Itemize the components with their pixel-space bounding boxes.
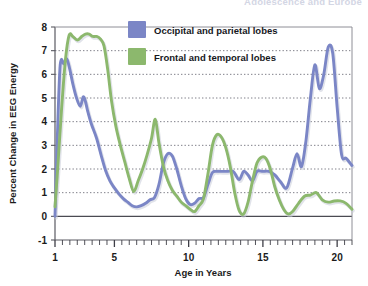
x-axis-title: Age in Years xyxy=(175,267,232,278)
x-tick-label-1: 1 xyxy=(52,252,58,263)
y-axis-ticks: -1012345678 xyxy=(38,22,55,246)
y-tick-label-2: 2 xyxy=(41,164,47,175)
x-tick-label-20: 20 xyxy=(332,252,344,263)
x-tick-label-10: 10 xyxy=(183,252,195,263)
y-tick-label-5: 5 xyxy=(41,93,47,104)
y-tick-label-1: 1 xyxy=(41,187,47,198)
x-axis-ticks: 15101520 xyxy=(52,252,343,263)
legend-swatch-occipital-parietal xyxy=(128,21,146,38)
y-tick-label-0: 0 xyxy=(41,211,47,222)
y-tick-label-7: 7 xyxy=(41,45,47,56)
x-axis-minor-ticks xyxy=(55,240,352,247)
y-axis-title: Percent Change in EEG Energy xyxy=(7,62,18,204)
legend-label-frontal-temporal: Frontal and temporal lobes xyxy=(154,52,276,63)
y-tick-label-3: 3 xyxy=(41,140,47,151)
x-tick-label-5: 5 xyxy=(112,252,118,263)
chart-canvas: -1012345678 15101520 Percent Change in E… xyxy=(0,0,368,286)
eeg-energy-line-chart: Adolescence and Europe -1012345678 15101… xyxy=(0,0,368,286)
y-tick-label-4: 4 xyxy=(41,116,47,127)
y-tick-label--1: -1 xyxy=(38,235,47,246)
y-tick-label-6: 6 xyxy=(41,69,47,80)
legend-swatch-frontal-temporal xyxy=(128,48,146,65)
y-tick-label-8: 8 xyxy=(41,22,47,33)
x-tick-label-15: 15 xyxy=(257,252,269,263)
legend-label-occipital-parietal: Occipital and parietal lobes xyxy=(154,25,278,36)
